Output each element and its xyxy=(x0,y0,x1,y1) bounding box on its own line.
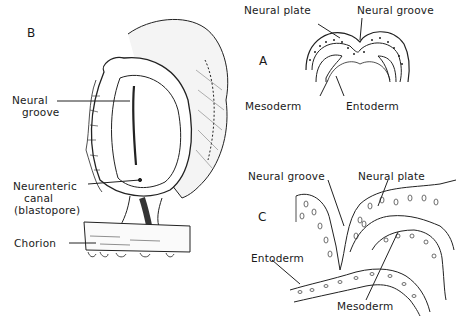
label-b-neural-groove-line2: groove xyxy=(22,106,59,118)
label-c-neural-plate: Neural plate xyxy=(358,170,425,182)
panel-a-letter: A xyxy=(259,54,267,68)
label-b-chorion: Chorion xyxy=(14,237,56,249)
label-a-mesoderm: Mesoderm xyxy=(245,100,302,112)
label-a-neural-plate: Neural plate xyxy=(244,4,311,16)
label-b-neurenteric-line2: canal xyxy=(24,192,53,204)
panel-a-drawing xyxy=(306,18,409,96)
label-c-entoderm: Entoderm xyxy=(251,252,304,264)
chorion-slab xyxy=(84,222,190,252)
neural-plate-outer xyxy=(306,32,409,82)
illustration-canvas xyxy=(0,0,461,320)
embryo-outer xyxy=(91,57,191,196)
label-a-entoderm: Entoderm xyxy=(346,100,399,112)
label-c-mesoderm: Mesoderm xyxy=(337,300,394,312)
label-c-neural-groove: Neural groove xyxy=(248,170,325,182)
mesoderm-c xyxy=(372,230,446,300)
label-b-neurenteric-line3: (blastopore) xyxy=(14,204,80,216)
panel-c-drawing xyxy=(272,180,456,316)
label-a-neural-groove: Neural groove xyxy=(357,4,434,16)
panel-b-letter: B xyxy=(27,26,35,40)
panel-c-letter: C xyxy=(258,210,266,224)
panel-b-drawing xyxy=(57,19,228,256)
label-b-neurenteric-line1: Neurenteric xyxy=(13,180,77,192)
label-b-neural-groove-line1: Neural xyxy=(12,94,48,106)
